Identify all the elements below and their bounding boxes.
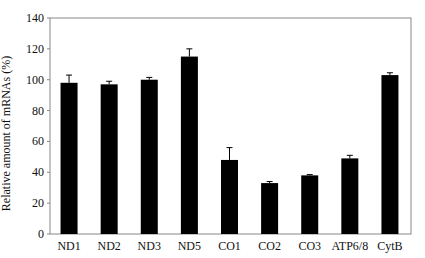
- bar-nd5: [181, 57, 198, 234]
- y-tick-label: 120: [26, 42, 44, 56]
- x-tick-label: CO2: [258, 239, 281, 253]
- x-tick-label: ND5: [178, 239, 201, 253]
- x-tick-label: CO3: [298, 239, 321, 253]
- x-tick-label: ND2: [97, 239, 120, 253]
- bar-co1: [221, 160, 238, 234]
- y-tick-label: 140: [26, 11, 44, 25]
- y-tick-label: 0: [38, 227, 44, 241]
- bar-nd3: [141, 80, 158, 234]
- bar-co2: [261, 183, 278, 234]
- y-tick-label: 20: [32, 196, 44, 210]
- x-tick-label: CO1: [218, 239, 241, 253]
- bar-chart: 020406080100120140ND1ND2ND3ND5CO1CO2CO3A…: [0, 0, 425, 258]
- y-tick-label: 40: [32, 165, 44, 179]
- bar-nd2: [101, 84, 118, 234]
- bar-nd1: [61, 83, 78, 234]
- x-tick-label: CytB: [377, 239, 402, 253]
- y-tick-label: 60: [32, 134, 44, 148]
- x-tick-label: ND3: [138, 239, 161, 253]
- y-tick-label: 80: [32, 104, 44, 118]
- bar-cytb: [381, 75, 398, 234]
- bar-co3: [301, 175, 318, 234]
- x-tick-label: ND1: [57, 239, 80, 253]
- x-tick-label: ATP6/8: [331, 239, 368, 253]
- bar-atp68: [341, 158, 358, 234]
- y-tick-label: 100: [26, 73, 44, 87]
